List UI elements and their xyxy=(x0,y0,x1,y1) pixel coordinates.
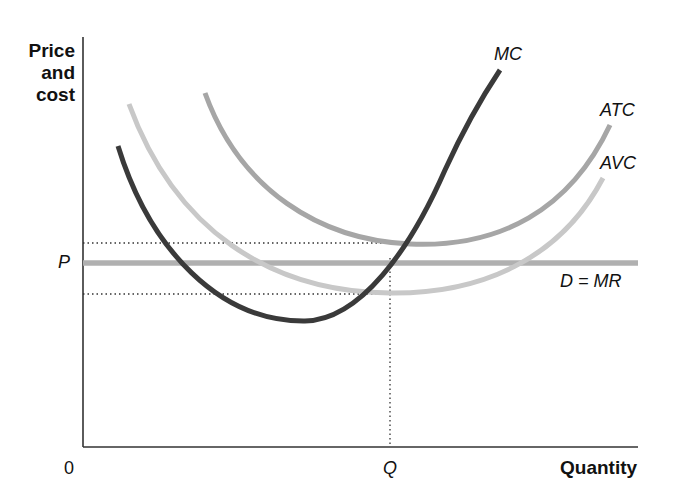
atc-curve xyxy=(205,93,610,244)
y-axis-label-line: Price xyxy=(29,40,75,62)
mc-label: MC xyxy=(494,44,522,65)
p-tick-label: P xyxy=(58,252,70,273)
x-axis-label: Quantity xyxy=(560,457,637,479)
y-axis-label-line: cost xyxy=(29,84,75,106)
origin-label: 0 xyxy=(64,458,74,479)
avc-label: AVC xyxy=(600,153,636,174)
cost-curves-chart xyxy=(0,0,678,500)
atc-label: ATC xyxy=(600,100,635,121)
demand-mr-label: D = MR xyxy=(560,271,622,292)
y-axis-label: Price and cost xyxy=(29,40,75,106)
y-axis-label-line: and xyxy=(29,62,75,84)
q-tick-label: Q xyxy=(383,458,397,479)
